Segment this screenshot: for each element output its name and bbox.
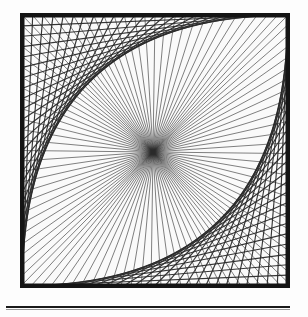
horizontal-rule-bar: [6, 306, 290, 308]
figure-page: [0, 0, 308, 317]
string-art-figure: [0, 0, 308, 317]
horizontal-rule-hairline: [6, 309, 290, 310]
